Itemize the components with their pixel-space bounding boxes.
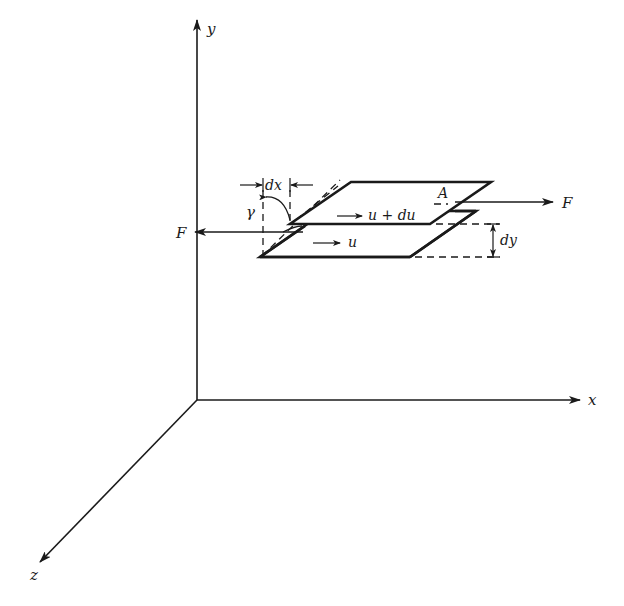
dy-label: dy — [500, 232, 518, 248]
force-right: F — [455, 194, 573, 212]
force-left-label: F — [175, 224, 187, 242]
force-right-label: F — [561, 194, 573, 212]
diagram-canvas: y x z dx γ F — [0, 0, 624, 606]
shear-angle-arc — [266, 197, 290, 220]
shear-diagram: y x z dx γ F — [0, 0, 624, 606]
axes: y x z — [29, 20, 597, 584]
dx-dimension: dx — [240, 177, 313, 193]
z-axis — [40, 400, 197, 562]
y-axis-label: y — [206, 20, 216, 38]
dx-label: dx — [265, 177, 282, 193]
x-axis-label: x — [588, 391, 597, 409]
area-label: A — [436, 185, 448, 201]
z-axis-label: z — [29, 566, 38, 584]
shear-angle-label: γ — [246, 203, 255, 221]
top-velocity-label: u + du — [368, 207, 416, 223]
bottom-velocity-label: u — [348, 234, 357, 250]
